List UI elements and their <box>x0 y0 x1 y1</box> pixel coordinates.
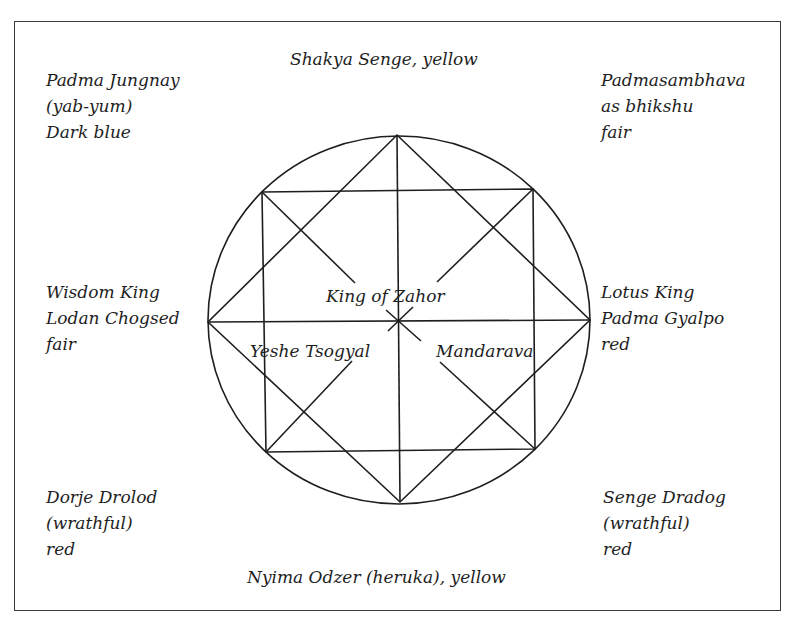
label-line: Dorje Drolod <box>46 484 157 510</box>
label-top-left: Padma Jungnay (yab-yum) Dark blue <box>46 67 180 145</box>
label-line: fair <box>46 331 180 357</box>
label-center-top: King of Zahor <box>326 283 445 309</box>
label-line: Padma Gyalpo <box>601 305 724 331</box>
diagonal-br <box>440 362 535 449</box>
label-center-right: Mandarava <box>436 338 534 364</box>
label-line: red <box>46 536 157 562</box>
label-top-right: Padmasambhava as bhikshu fair <box>601 67 746 145</box>
label-line: Wisdom King <box>46 279 180 305</box>
diagonal-tr-inner <box>388 307 413 331</box>
label-right: Lotus King Padma Gyalpo red <box>601 279 724 357</box>
diagonal-tl <box>262 192 355 283</box>
label-bottom: Nyima Odzer (heruka), yellow <box>247 564 506 590</box>
label-line: Senge Dradog <box>603 484 726 510</box>
label-line: red <box>601 331 724 357</box>
label-center-left: Yeshe Tsogyal <box>250 338 370 364</box>
label-line: Padma Jungnay <box>46 67 180 93</box>
label-line: Lotus King <box>601 279 724 305</box>
label-line: (wrathful) <box>46 510 157 536</box>
label-bottom-left: Dorje Drolod (wrathful) red <box>46 484 157 562</box>
diagonal-tl-inner <box>386 310 421 341</box>
label-line: red <box>603 536 726 562</box>
label-line: (yab-yum) <box>46 93 180 119</box>
label-bottom-right: Senge Dradog (wrathful) red <box>603 484 726 562</box>
label-top: Shakya Senge, yellow <box>290 46 478 72</box>
label-left: Wisdom King Lodan Chogsed fair <box>46 279 180 357</box>
label-line: Lodan Chogsed <box>46 305 180 331</box>
label-line: (wrathful) <box>603 510 726 536</box>
label-line: Dark blue <box>46 119 180 145</box>
label-line: as bhikshu <box>601 93 746 119</box>
label-line: fair <box>601 119 746 145</box>
label-line: Padmasambhava <box>601 67 746 93</box>
diagonal-bl <box>266 361 352 452</box>
diagonal-tr <box>437 189 533 282</box>
